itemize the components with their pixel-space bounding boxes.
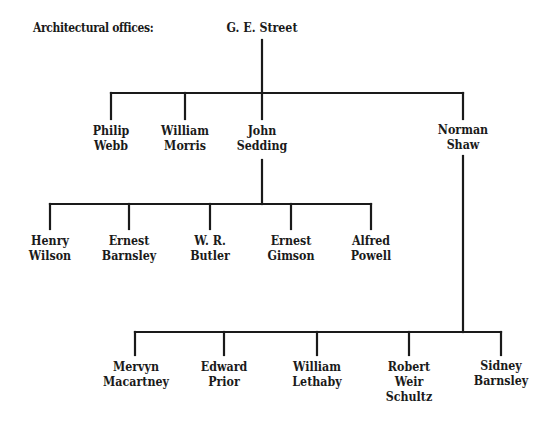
node-label-line: Edward <box>201 359 247 374</box>
node-ernest-barnsley: Ernest Barnsley <box>96 233 162 263</box>
node-label-line: Ernest <box>267 233 314 248</box>
node-alfred-powell: Alfred Powell <box>346 233 395 263</box>
node-label-line: Gimson <box>267 248 314 263</box>
node-robert-weir-schultz: Robert Weir Schultz <box>381 359 438 404</box>
node-label-line: W. R. <box>190 233 230 248</box>
node-label-line: John <box>237 123 288 138</box>
diagram-caption: Architectural offices: <box>33 20 153 35</box>
node-label-line: Webb <box>93 138 130 153</box>
node-mervyn-macartney: Mervyn Macartney <box>96 359 176 389</box>
node-label-line: Morris <box>161 138 209 153</box>
node-label-line: Schultz <box>386 389 432 404</box>
node-label-line: Lethaby <box>292 374 341 389</box>
node-w-r-butler: W. R. Butler <box>186 233 234 263</box>
node-label-line: Mervyn <box>103 359 169 374</box>
node-label-line: Philip <box>93 123 130 138</box>
node-label-line: Prior <box>201 374 247 389</box>
node-william-lethaby: William Lethaby <box>287 359 347 389</box>
node-label-line: Robert <box>386 359 432 374</box>
node-john-sedding: John Sedding <box>231 123 293 153</box>
node-label-line: Butler <box>190 248 230 263</box>
node-norman-shaw: Norman Shaw <box>432 122 493 152</box>
node-label-line: William <box>292 359 341 374</box>
architectural-offices-tree-diagram: Architectural offices: G. E. Street Phil… <box>0 0 551 424</box>
node-label-line: Sidney <box>474 358 528 373</box>
node-label-line: William <box>161 123 209 138</box>
node-william-morris: William Morris <box>156 123 214 153</box>
node-label-line: Barnsley <box>474 373 528 388</box>
node-label-line: Wilson <box>29 248 71 263</box>
node-label-line: Macartney <box>103 374 169 389</box>
node-label-line: Powell <box>351 248 391 263</box>
node-label-line: Barnsley <box>102 248 156 263</box>
node-label-line: Ernest <box>102 233 156 248</box>
node-label-line: Alfred <box>351 233 391 248</box>
node-label-line: Norman <box>438 122 488 137</box>
node-label-line: Weir <box>386 374 432 389</box>
node-g-e-street: G. E. Street <box>219 20 306 35</box>
node-label-line: Henry <box>29 233 71 248</box>
node-ernest-gimson: Ernest Gimson <box>262 233 319 263</box>
node-label-line: Sedding <box>237 138 288 153</box>
node-label-line: G. E. Street <box>226 20 297 35</box>
node-philip-webb: Philip Webb <box>89 123 134 153</box>
node-sidney-barnsley: Sidney Barnsley <box>468 358 534 388</box>
node-edward-prior: Edward Prior <box>196 359 253 389</box>
node-label-line: Shaw <box>438 137 488 152</box>
node-henry-wilson: Henry Wilson <box>24 233 76 263</box>
